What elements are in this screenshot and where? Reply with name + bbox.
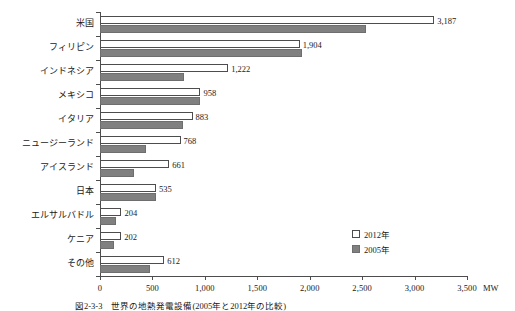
x-tick-label-0: 0 <box>98 283 102 293</box>
x-axis-unit-label: MW <box>483 283 499 293</box>
bar-2012 <box>100 112 193 120</box>
bar-value-label: 535 <box>159 185 172 193</box>
bar-value-label: 883 <box>196 113 209 121</box>
x-tick-1500 <box>257 276 258 280</box>
legend-swatch-gray-square <box>352 245 360 253</box>
bar-2005 <box>100 25 366 33</box>
x-tick-label-1000: 1,000 <box>195 283 215 293</box>
bar-2005 <box>100 169 134 177</box>
category-label: アイスランド <box>40 163 94 172</box>
legend-item-2012: 2012年 <box>352 228 390 240</box>
bar-2012 <box>100 160 169 168</box>
x-tick-label-3000: 3,000 <box>405 283 425 293</box>
bar-2005 <box>100 73 184 81</box>
bar-2005 <box>100 121 183 129</box>
bar-2012 <box>100 16 434 24</box>
x-tick-0 <box>100 276 101 280</box>
bar-2012 <box>100 232 121 240</box>
bar-value-label: 202 <box>124 233 137 241</box>
x-tick-3500 <box>467 276 468 280</box>
legend-item-2005: 2005年 <box>352 243 390 255</box>
legend-label-2005: 2005年 <box>364 243 390 255</box>
bar-value-label: 768 <box>184 137 197 145</box>
bar-2005 <box>100 193 156 201</box>
category-row: メキシコ958 <box>100 84 467 108</box>
x-tick-label-2500: 2,500 <box>352 283 372 293</box>
bar-2005 <box>100 241 114 249</box>
bar-2012 <box>100 88 200 96</box>
x-axis-line <box>100 276 467 277</box>
category-row: ケニア202 <box>100 228 467 252</box>
bar-value-label: 3,187 <box>437 17 456 25</box>
bar-value-label: 612 <box>167 257 180 265</box>
x-tick-label-500: 500 <box>146 283 159 293</box>
category-label: フィリピン <box>49 43 94 52</box>
bar-2012 <box>100 136 181 144</box>
bar-2012 <box>100 40 300 48</box>
x-tick-2000 <box>310 276 311 280</box>
chart-legend: 2012年 2005年 <box>352 228 390 258</box>
category-row: アイスランド661 <box>100 156 467 180</box>
category-label: インドネシア <box>40 67 94 76</box>
category-label: 日本 <box>76 187 94 196</box>
y-tick-end <box>96 276 100 277</box>
legend-label-2012: 2012年 <box>364 228 390 240</box>
category-label: その他 <box>67 259 94 268</box>
category-row: 米国3,187 <box>100 12 467 36</box>
category-row: ニュージーランド768 <box>100 132 467 156</box>
plot-area: 05001,0001,5002,0002,5003,0003,500 米国3,1… <box>100 12 467 276</box>
x-tick-label-3500: 3,500 <box>457 283 477 293</box>
category-row: 日本535 <box>100 180 467 204</box>
bar-value-label: 661 <box>172 161 185 169</box>
bar-2005 <box>100 145 146 153</box>
x-tick-500 <box>152 276 153 280</box>
bar-value-label: 958 <box>203 89 216 97</box>
category-row: エルサルバドル204 <box>100 204 467 228</box>
x-tick-3000 <box>415 276 416 280</box>
bar-2012 <box>100 184 156 192</box>
category-label: イタリア <box>58 115 94 124</box>
x-tick-label-1500: 1,500 <box>247 283 267 293</box>
category-row: インドネシア1,222 <box>100 60 467 84</box>
bar-value-label: 1,904 <box>303 41 322 49</box>
category-row: イタリア883 <box>100 108 467 132</box>
category-label: 米国 <box>76 19 94 28</box>
bar-value-label: 1,222 <box>231 65 250 73</box>
bar-2005 <box>100 49 302 57</box>
bar-2012 <box>100 64 228 72</box>
bar-2012 <box>100 208 121 216</box>
figure-caption: 図2-3-3 世界の地熱発電設備(2005年と2012年の比較) <box>75 299 505 311</box>
category-row: フィリピン1,904 <box>100 36 467 60</box>
category-row: その他612 <box>100 252 467 276</box>
bar-value-label: 204 <box>124 209 137 217</box>
x-tick-2500 <box>362 276 363 280</box>
bar-2012 <box>100 256 164 264</box>
x-tick-1000 <box>205 276 206 280</box>
category-label: ケニア <box>67 235 94 244</box>
bar-2005 <box>100 265 150 273</box>
bar-2005 <box>100 97 200 105</box>
category-label: メキシコ <box>58 91 94 100</box>
bar-2005 <box>100 217 116 225</box>
category-label: ニュージーランド <box>22 139 94 148</box>
legend-swatch-white-square <box>352 230 360 238</box>
x-tick-label-2000: 2,000 <box>300 283 320 293</box>
category-label: エルサルバドル <box>31 211 94 220</box>
